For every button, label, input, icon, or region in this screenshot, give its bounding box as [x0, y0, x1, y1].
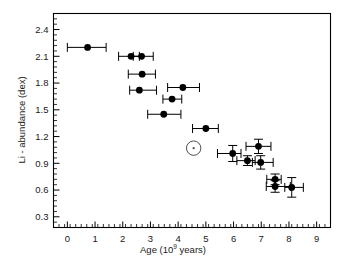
y-tick-label: 1.8 [35, 77, 48, 88]
y-tick-label: 0.9 [35, 158, 48, 169]
data-point-marker [179, 84, 186, 91]
y-tick-label: 2.4 [35, 24, 48, 35]
data-point-marker [160, 111, 167, 118]
y-tick-label: 2.1 [35, 51, 48, 62]
data-point-marker [272, 176, 279, 183]
y-axis-title: Li - abundance (dex) [16, 76, 27, 163]
data-point-marker [136, 87, 143, 94]
data-point-marker [169, 96, 176, 103]
x-tick-label: 7 [259, 233, 264, 244]
y-tick-label: 0.6 [35, 184, 48, 195]
data-point-marker [138, 53, 145, 60]
x-tick-label: 3 [148, 233, 153, 244]
x-tick-label: 2 [120, 233, 125, 244]
chart-figure: 0.30.60.91.21.51.82.12.4 0123456789 Age … [0, 0, 346, 272]
figure-background [0, 0, 346, 272]
y-tick-label: 1.5 [35, 104, 48, 115]
data-point-marker [202, 125, 209, 132]
x-tick-label: 6 [231, 233, 236, 244]
y-tick-label: 1.2 [35, 131, 48, 142]
data-point-marker [244, 157, 251, 164]
data-point-marker [139, 71, 146, 78]
x-tick-label: 9 [314, 233, 319, 244]
data-point-marker [257, 159, 264, 166]
x-tick-label: 5 [203, 233, 208, 244]
x-tick-label: 4 [176, 233, 181, 244]
x-tick-label: 0 [65, 233, 70, 244]
data-point-marker [229, 150, 236, 157]
y-tick-label: 0.3 [35, 211, 48, 222]
data-point-marker [255, 143, 262, 150]
x-axis-title: Age (109 years) [140, 243, 206, 255]
x-tick-label: 1 [92, 233, 97, 244]
data-point-marker [288, 184, 295, 191]
scatter-plot-canvas: 0.30.60.91.21.51.82.12.4 0123456789 Age … [0, 0, 346, 272]
data-point-marker [272, 183, 279, 190]
data-point-marker [128, 53, 135, 60]
x-tick-label: 8 [286, 233, 291, 244]
data-point-marker [84, 44, 91, 51]
